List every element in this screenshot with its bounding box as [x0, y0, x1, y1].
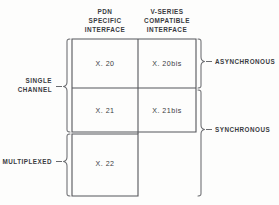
brace-multiplexed	[56, 134, 70, 196]
grid-outer-upper	[72, 39, 196, 132]
column-header-vseries-line-3: INTERFACE	[147, 26, 188, 33]
column-header-pdn-line-3: INTERFACE	[85, 26, 126, 33]
brace-multiplexed-shape	[64, 134, 71, 196]
brace-single-channel-shape	[64, 39, 71, 132]
brace-synchronous-shape	[198, 90, 205, 196]
interface-classification-diagram: PDN SPECIFIC INTERFACE V-SERIES COMPATIB…	[0, 0, 279, 205]
column-header-pdn-specific-interface: PDN SPECIFIC INTERFACE	[85, 8, 126, 33]
cell-x21: X. 21	[95, 107, 114, 115]
cell-x20bis: X. 20bis	[152, 60, 182, 68]
column-header-pdn-line-2: SPECIFIC	[88, 17, 121, 24]
right-label-synchronous: SYNCHRONOUS	[215, 126, 270, 133]
brace-single-channel	[56, 39, 70, 132]
row-label-multiplexed: MULTIPLEXED	[3, 158, 52, 165]
cell-x21bis: X. 21bis	[152, 107, 182, 115]
cell-x22: X. 22	[95, 160, 114, 168]
cell-x20: X. 20	[95, 60, 114, 68]
column-header-v-series-compatible-interface: V-SERIES COMPATIBLE INTERFACE	[144, 8, 190, 33]
row-label-single-channel-line-2: CHANNEL	[18, 86, 52, 93]
column-header-vseries-line-1: V-SERIES	[150, 8, 183, 15]
row-label-single-channel: SINGLE CHANNEL	[18, 77, 52, 93]
column-header-pdn-line-1: PDN	[98, 8, 113, 15]
row-label-single-channel-line-1: SINGLE	[26, 77, 52, 84]
column-header-vseries-line-2: COMPATIBLE	[144, 17, 190, 24]
brace-asynchronous	[198, 39, 212, 88]
brace-asynchronous-shape	[198, 39, 205, 88]
right-label-asynchronous: ASYNCHRONOUS	[215, 58, 275, 65]
brace-synchronous	[198, 90, 212, 196]
